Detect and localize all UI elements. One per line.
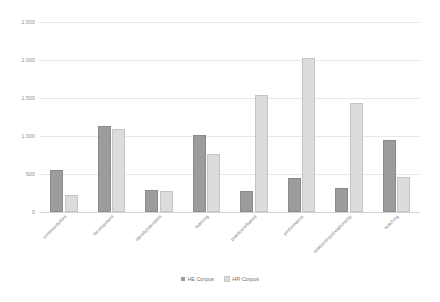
legend-entry: HR Corpus <box>224 276 259 282</box>
y-axis-tick-label: 1.000 <box>22 133 35 139</box>
bar-hr-corpus <box>112 129 125 212</box>
bars-layer <box>40 22 420 212</box>
bar-he-corpus <box>193 135 206 212</box>
plot-area: 05001.0001.5002.0002.500 <box>40 22 420 212</box>
x-axis-tick-label-text: relationships/relationship <box>312 214 352 254</box>
bar-group <box>88 22 136 212</box>
x-axis-labels: community/tiesdevelopmentidentity/identi… <box>40 212 420 270</box>
y-axis-tick-label: 1.500 <box>22 95 35 101</box>
legend-swatch-icon <box>224 276 230 282</box>
bar-group <box>183 22 231 212</box>
bar-he-corpus <box>383 140 396 212</box>
y-axis-tick-label: 500 <box>26 171 35 177</box>
bar-chart: 05001.0001.5002.0002.500 community/tiesd… <box>0 0 440 302</box>
x-axis-tick-label-text: practice/s/based <box>230 214 258 242</box>
x-axis-tick-label-text: development <box>92 214 115 237</box>
bar-he-corpus <box>50 170 63 212</box>
legend-entry: HE Corpus <box>181 276 214 282</box>
x-axis-tick-label-text: identity/identities <box>134 214 162 242</box>
bar-he-corpus <box>335 188 348 212</box>
bar-group <box>325 22 373 212</box>
x-axis-tick-label-text: teaching <box>384 214 400 230</box>
bar-group <box>278 22 326 212</box>
y-axis-tick-label: 2.000 <box>22 57 35 63</box>
bar-hr-corpus <box>255 95 268 212</box>
chart-legend: HE CorpusHR Corpus <box>0 276 440 282</box>
bar-group <box>40 22 88 212</box>
bar-he-corpus <box>145 190 158 212</box>
bar-he-corpus <box>240 191 253 212</box>
legend-swatch-icon <box>181 277 185 281</box>
bar-group <box>230 22 278 212</box>
legend-label: HE Corpus <box>187 276 213 282</box>
x-axis-tick-label-text: community/ties <box>42 214 68 240</box>
x-axis-tick-label-text: performance <box>283 214 305 236</box>
bar-hr-corpus <box>350 103 363 212</box>
bar-hr-corpus <box>302 58 315 212</box>
bar-group <box>135 22 183 212</box>
y-axis-tick-label: 2.500 <box>22 19 35 25</box>
x-axis-tick-label-text: learning <box>194 214 209 229</box>
legend-label: HR Corpus <box>232 276 259 282</box>
bar-he-corpus <box>98 126 111 212</box>
y-axis-tick-label: 0 <box>32 209 35 215</box>
bar-he-corpus <box>288 178 301 212</box>
